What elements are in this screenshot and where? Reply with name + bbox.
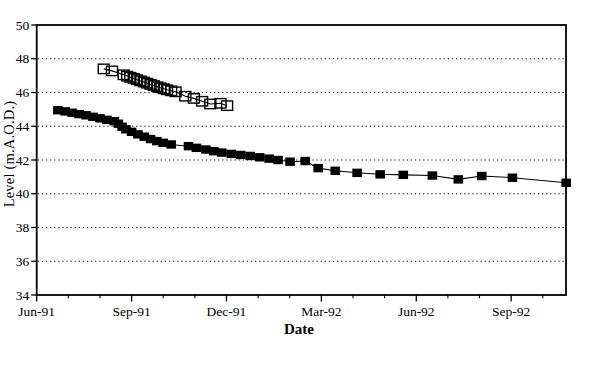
x-tick-label-Sep-91: Sep-91 [112,304,150,319]
y-tick-label-42: 42 [16,153,30,168]
data-point-filled-square [508,174,518,182]
data-point-filled-square [398,171,408,179]
data-point-filled-square [264,154,274,162]
data-point-filled-square [236,151,246,159]
data-point-filled-square [255,153,265,161]
x-tick-label-Mar-92: Mar-92 [301,304,341,319]
data-point-filled-square [217,148,227,156]
data-point-filled-square [454,175,464,183]
scanned-chart-page: 504846444240383634Jun-91Sep-91Dec-91Mar-… [0,0,599,366]
chart-canvas: 504846444240383634Jun-91Sep-91Dec-91Mar-… [0,0,599,366]
data-point-filled-square [352,169,362,177]
x-tick-label-Jun-91: Jun-91 [18,304,55,319]
y-axis: 504846444240383634 [16,18,37,303]
data-point-filled-square [561,179,571,187]
y-tick-label-40: 40 [16,186,30,201]
data-point-filled-square [300,157,310,165]
y-tick-label-48: 48 [16,51,30,66]
data-point-filled-square [285,157,295,165]
data-point-filled-square [330,167,340,175]
series-open-square [98,64,232,110]
level-vs-date-chart: 504846444240383634Jun-91Sep-91Dec-91Mar-… [0,0,599,366]
series-line-filled-square [58,110,566,183]
x-tick-label-Jun-92: Jun-92 [398,304,435,319]
data-point-filled-square [375,170,385,178]
data-point-filled-square [313,164,323,172]
x-axis-title: Date [284,321,314,338]
data-point-filled-square [477,172,487,180]
x-tick-label-Dec-91: Dec-91 [207,304,247,319]
data-point-filled-square [192,144,202,152]
x-tick-label-Sep-92: Sep-92 [492,304,530,319]
data-point-filled-square [166,140,176,148]
y-tick-label-50: 50 [16,18,30,33]
y-tick-label-34: 34 [16,288,30,303]
x-axis: Jun-91Sep-91Dec-91Mar-92Jun-92Sep-92 [18,295,542,319]
series-filled-square [53,106,571,187]
y-axis-title: Level (m.A.O.D.) [1,101,18,208]
y-tick-label-46: 46 [16,85,30,100]
data-point-filled-square [273,156,283,164]
y-tick-label-38: 38 [16,220,30,235]
data-point-filled-square [428,171,438,179]
data-point-filled-square [245,152,255,160]
y-tick-label-36: 36 [16,254,30,269]
data-point-filled-square [226,150,236,158]
y-tick-label-44: 44 [16,119,30,134]
